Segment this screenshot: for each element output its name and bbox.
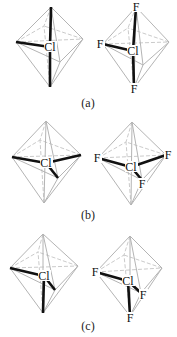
atom-f: F xyxy=(97,37,104,51)
atom-f: F xyxy=(131,82,138,96)
hidden-edge xyxy=(40,140,81,155)
atom-cl: Cl xyxy=(122,274,134,288)
octahedral-clf3-figure: ClClFFF(a)ClClFFF(b)ClClFFF(c) xyxy=(0,0,177,337)
octahedron-b-right: ClFFF xyxy=(93,122,173,205)
atom-f: F xyxy=(165,148,172,162)
edge xyxy=(16,7,51,42)
atom-f: F xyxy=(127,311,134,325)
panel-label: (c) xyxy=(81,319,94,333)
equatorial-edge xyxy=(96,268,162,272)
panel-label: (a) xyxy=(81,96,94,110)
edge xyxy=(46,121,81,155)
atom-f: F xyxy=(94,151,101,165)
edge xyxy=(43,234,78,266)
edge xyxy=(55,266,78,290)
octahedron-a-right: ClFFF xyxy=(96,0,169,96)
edge xyxy=(136,7,169,42)
atom-f: F xyxy=(133,0,140,14)
atom-f: F xyxy=(140,288,147,302)
atom-f: F xyxy=(92,265,99,279)
atom-cl: Cl xyxy=(125,160,137,174)
hidden-edge xyxy=(38,252,78,266)
hidden-edge xyxy=(98,142,126,158)
atom-cl: Cl xyxy=(127,44,139,58)
octahedron-c-left: Cl xyxy=(10,234,78,313)
edge xyxy=(44,178,58,203)
edge xyxy=(143,42,169,65)
atom-cl: Cl xyxy=(38,269,50,283)
hidden-edge xyxy=(10,252,38,268)
edge xyxy=(60,39,83,62)
edge xyxy=(103,7,136,44)
atom-f: F xyxy=(139,177,146,191)
octahedron-a-left: Cl xyxy=(16,7,83,87)
equatorial-edge xyxy=(10,266,78,268)
octahedron-c-right: ClFFF xyxy=(91,236,162,325)
octahedron-b-left: Cl xyxy=(12,121,81,203)
atom-cl: Cl xyxy=(40,156,52,170)
atom-cl: Cl xyxy=(44,40,56,54)
edge xyxy=(10,234,43,268)
panel-label: (b) xyxy=(81,208,95,222)
